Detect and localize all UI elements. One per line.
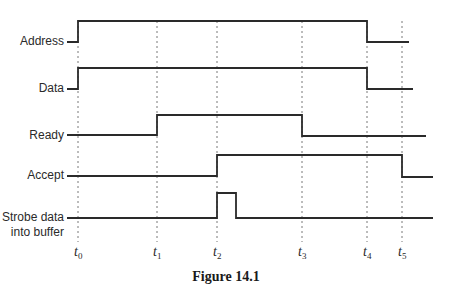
timing-diagram: AddressDataReadyAcceptStrobe datainto bu… [0,0,449,290]
signal-label-ready: Ready [29,128,64,142]
time-marker-t2: t2 [213,244,221,261]
signal-label-strobe-data-into-buffer: Strobe data [2,210,64,224]
time-marker-t4: t4 [363,244,372,261]
waveform-ready [67,115,426,136]
figure-caption: Figure 14.1 [192,269,259,284]
signal-label-address: Address [20,34,64,48]
time-marker-t3: t3 [298,244,307,261]
time-marker-t5: t5 [398,244,407,261]
waveform-address [67,21,409,42]
time-marker-subscript: 1 [157,251,162,261]
time-marker-t1: t1 [153,244,161,261]
time-marker-subscript: 5 [402,251,407,261]
time-marker-subscript: 4 [367,251,372,261]
waveform-strobe-data-into-buffer [67,193,433,218]
time-marker-subscript: 2 [217,251,222,261]
signal-labels: AddressDataReadyAcceptStrobe datainto bu… [2,34,65,239]
signal-label-strobe-data-into-buffer: into buffer [11,225,64,239]
signal-label-accept: Accept [27,168,64,182]
waveform-accept [67,155,433,177]
time-marker-subscript: 3 [302,251,307,261]
signal-waveforms [67,21,433,218]
signal-label-data: Data [39,81,65,95]
waveform-data [67,68,413,89]
time-guide-lines [78,21,402,242]
time-marker-t0: t0 [74,244,83,261]
time-marker-labels: t0t1t2t3t4t5 [74,244,407,261]
time-marker-subscript: 0 [78,251,83,261]
